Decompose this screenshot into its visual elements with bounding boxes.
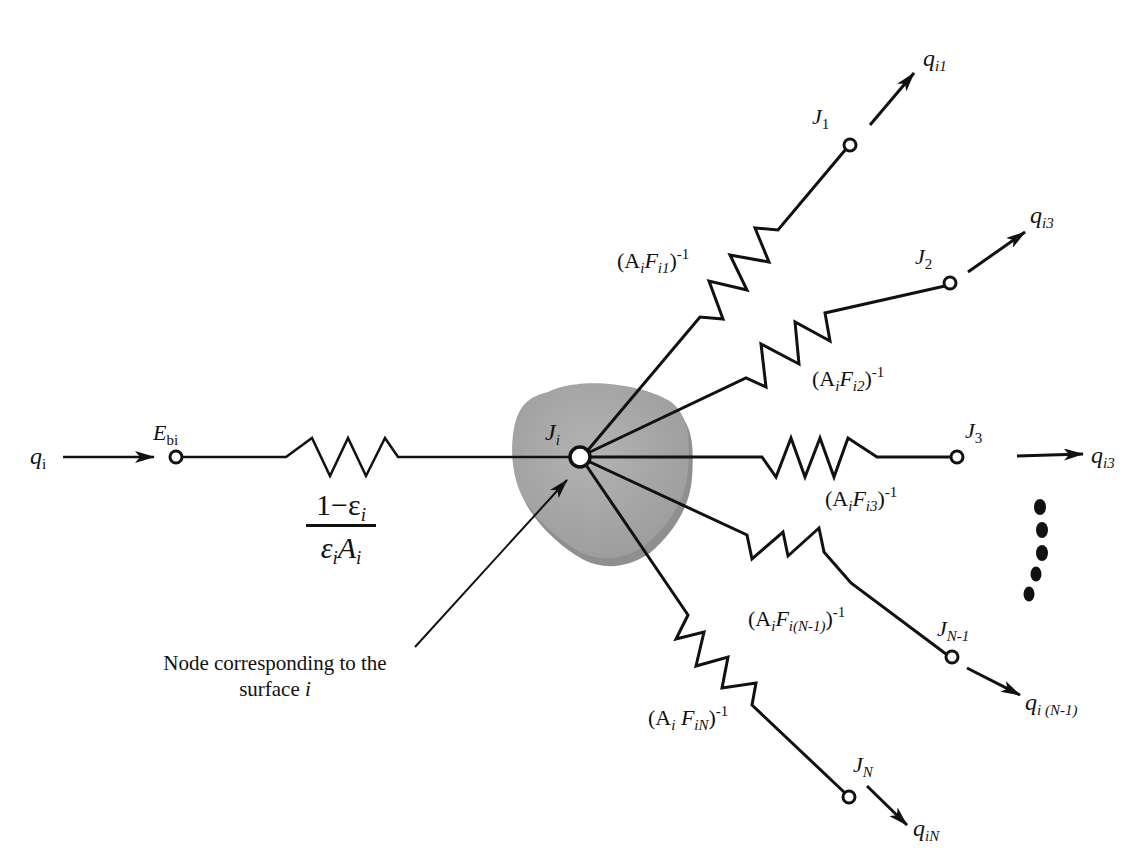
- flux-arrow-2: [968, 232, 1025, 272]
- surface-resistance-label: 1−εi εiAi: [306, 488, 376, 565]
- annotation-text: Node corresponding to the surface i: [130, 650, 420, 703]
- flux-arrow-n: [867, 786, 907, 825]
- node-j-i-center: [570, 447, 590, 467]
- surface-body-shape: [512, 383, 693, 566]
- input-flux-label: qi: [30, 444, 46, 468]
- resistance-3-label: (AiFi3)-1: [825, 488, 897, 510]
- node-e-bi: [170, 451, 182, 463]
- node-j2: [944, 277, 956, 289]
- flux-n-label: qiN: [913, 816, 939, 840]
- node-j1-label: J1: [812, 106, 829, 128]
- resistance-n-minus-1-label: (AiFi(N-1))-1: [748, 608, 845, 630]
- resistance-n-label: (Ai FiN)-1: [648, 707, 728, 729]
- flux-3-label: qi3: [1091, 443, 1115, 467]
- node-j2-label: J2: [915, 246, 932, 268]
- flux-arrow-1: [870, 73, 914, 125]
- flux-arrow-3: [1017, 454, 1083, 456]
- flux-2-label: qi3: [1030, 203, 1054, 227]
- flux-n-minus-1-label: qi (N-1): [1025, 690, 1077, 714]
- branch-1-resistor: [588, 149, 846, 450]
- node-j1: [844, 139, 856, 151]
- node-j3: [951, 451, 963, 463]
- annotation-pointer-arrow: [415, 480, 567, 647]
- resistance-1-label: (AiFi1)-1: [617, 250, 689, 272]
- node-j-n-label: JN: [853, 754, 873, 776]
- ellipsis-dots-icon: [1024, 499, 1049, 602]
- flux-1-label: qi1: [923, 46, 947, 70]
- node-j-n-minus-1-label: JN-1: [937, 618, 969, 640]
- branch-2-resistor: [590, 286, 945, 452]
- flux-arrow-n-minus-1: [967, 668, 1020, 695]
- node-j-n-minus-1: [946, 651, 958, 663]
- center-node-label: Ji: [545, 420, 560, 444]
- node-j-n: [843, 791, 855, 803]
- node-e-bi-label: Ebi: [153, 422, 178, 444]
- node-j3-label: J3: [965, 420, 982, 442]
- resistance-2-label: (AiFi2)-1: [812, 368, 884, 390]
